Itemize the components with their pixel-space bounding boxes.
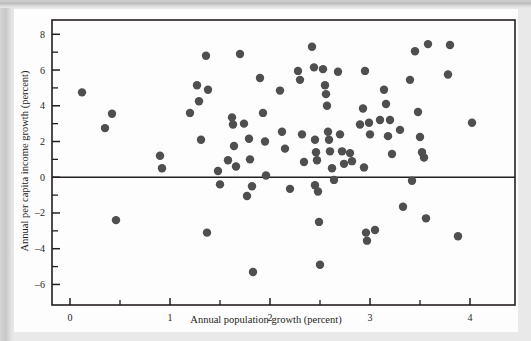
data-point bbox=[156, 152, 164, 160]
page-edge-top-shadow bbox=[0, 0, 531, 8]
data-point bbox=[259, 109, 267, 117]
data-point bbox=[312, 148, 320, 156]
data-point bbox=[195, 97, 203, 105]
data-point bbox=[214, 167, 222, 175]
data-point bbox=[202, 52, 210, 60]
data-point bbox=[336, 130, 344, 138]
data-point bbox=[224, 156, 232, 164]
data-point bbox=[361, 67, 369, 75]
data-point bbox=[276, 86, 284, 94]
y-tick-label: 6 bbox=[40, 65, 45, 76]
data-point bbox=[328, 164, 336, 172]
data-point bbox=[346, 149, 354, 157]
data-point bbox=[203, 228, 211, 236]
data-point bbox=[325, 136, 333, 144]
data-points bbox=[78, 40, 476, 276]
data-point bbox=[384, 132, 392, 140]
data-point bbox=[340, 160, 348, 168]
data-point bbox=[230, 142, 238, 150]
data-point bbox=[338, 147, 346, 155]
data-point bbox=[371, 226, 379, 234]
data-point bbox=[424, 40, 432, 48]
y-tick-label: 8 bbox=[40, 29, 45, 40]
data-point bbox=[286, 185, 294, 193]
data-point bbox=[245, 135, 253, 143]
data-point bbox=[310, 63, 318, 71]
data-point bbox=[380, 85, 388, 93]
data-point bbox=[193, 81, 201, 89]
data-point bbox=[324, 127, 332, 135]
data-point bbox=[243, 192, 251, 200]
data-point bbox=[313, 156, 321, 164]
data-point bbox=[359, 104, 367, 112]
data-point bbox=[408, 177, 416, 185]
data-point bbox=[362, 228, 370, 236]
data-point bbox=[406, 76, 414, 84]
data-point bbox=[319, 65, 327, 73]
data-point bbox=[281, 144, 289, 152]
data-point bbox=[204, 85, 212, 93]
data-point bbox=[356, 120, 364, 128]
data-point bbox=[363, 236, 371, 244]
data-point bbox=[422, 214, 430, 222]
x-tick-label: 4 bbox=[468, 312, 473, 323]
x-tick-label: 0 bbox=[68, 312, 73, 323]
data-point bbox=[294, 67, 302, 75]
data-point bbox=[386, 116, 394, 124]
data-point bbox=[101, 124, 109, 132]
x-axis-title: Annual population growth (percent) bbox=[190, 314, 342, 326]
data-point bbox=[322, 90, 330, 98]
data-point bbox=[298, 130, 306, 138]
data-point bbox=[314, 187, 322, 195]
data-point bbox=[229, 120, 237, 128]
y-tick-label: –2 bbox=[34, 207, 45, 218]
data-point bbox=[308, 43, 316, 51]
data-point bbox=[323, 102, 331, 110]
plot-frame bbox=[52, 20, 515, 305]
y-tick-label: 4 bbox=[40, 100, 45, 111]
data-point bbox=[321, 81, 329, 89]
data-point bbox=[315, 218, 323, 226]
data-point bbox=[446, 41, 454, 49]
data-point bbox=[420, 153, 428, 161]
figure-panel: 01234 86420–2–4–6 Annual population grow… bbox=[14, 9, 518, 332]
data-point bbox=[376, 116, 384, 124]
data-point bbox=[326, 147, 334, 155]
data-point bbox=[262, 171, 270, 179]
data-point bbox=[228, 113, 236, 121]
data-point bbox=[248, 182, 256, 190]
data-point bbox=[246, 155, 254, 163]
data-point bbox=[112, 216, 120, 224]
data-point bbox=[108, 110, 116, 118]
data-point bbox=[360, 163, 368, 171]
data-point bbox=[366, 130, 374, 138]
x-tick-label: 1 bbox=[168, 312, 173, 323]
data-point bbox=[240, 119, 248, 127]
y-tick-label: –6 bbox=[34, 279, 45, 290]
scatter-plot: 01234 86420–2–4–6 Annual population grow… bbox=[14, 9, 518, 332]
y-tick-label: 0 bbox=[40, 172, 45, 183]
data-point bbox=[186, 109, 194, 117]
data-point bbox=[216, 180, 224, 188]
data-point bbox=[444, 70, 452, 78]
data-point bbox=[236, 50, 244, 58]
y-axis-title: Annual per capita income growth (percent… bbox=[19, 70, 31, 252]
data-point bbox=[78, 88, 86, 96]
data-point bbox=[334, 68, 342, 76]
data-point bbox=[261, 137, 269, 145]
data-point bbox=[399, 203, 407, 211]
data-point bbox=[249, 268, 257, 276]
data-point bbox=[454, 232, 462, 240]
data-point bbox=[316, 261, 324, 269]
data-point bbox=[416, 133, 424, 141]
data-point bbox=[256, 74, 264, 82]
data-point bbox=[232, 162, 240, 170]
data-point bbox=[414, 108, 422, 116]
data-point bbox=[311, 136, 319, 144]
data-point bbox=[396, 126, 404, 134]
page-edge-left-shadow bbox=[0, 0, 14, 341]
data-point bbox=[330, 176, 338, 184]
data-point bbox=[158, 164, 166, 172]
data-point bbox=[388, 150, 396, 158]
x-tick-label: 3 bbox=[368, 312, 373, 323]
